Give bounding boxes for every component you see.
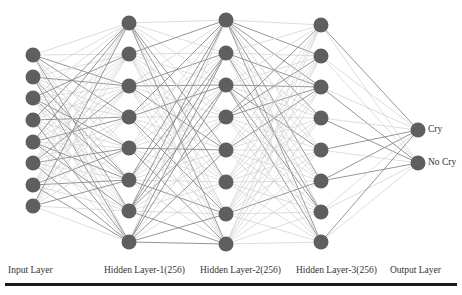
connection-edge xyxy=(226,20,321,56)
connection-edge xyxy=(321,163,418,212)
hidden3-neuron-4 xyxy=(314,111,329,126)
input-neuron-4 xyxy=(26,113,41,128)
hidden3-neuron-6 xyxy=(314,174,329,189)
connection-edge xyxy=(226,20,321,25)
hidden2-neuron-3 xyxy=(219,78,234,93)
connection-edge xyxy=(226,85,321,181)
connection-edge xyxy=(129,20,226,148)
input-neuron-7 xyxy=(26,178,41,193)
neural-network-diagram xyxy=(0,0,462,295)
hidden3-neuron-5 xyxy=(314,143,329,158)
output-node-label-cry: Cry xyxy=(428,124,442,134)
connection-edge xyxy=(129,150,226,180)
hidden1-neuron-7 xyxy=(122,204,137,219)
connection-edge xyxy=(226,117,321,181)
hidden3-neuron-3 xyxy=(314,80,329,95)
connection-edge xyxy=(321,163,418,242)
connection-edge xyxy=(321,25,418,130)
connection-edge xyxy=(321,118,418,130)
connection-edge xyxy=(129,20,226,23)
hidden1-neuron-3 xyxy=(122,79,137,94)
hidden3-neuron-2 xyxy=(314,49,329,64)
output-neuron-1 xyxy=(411,123,426,138)
connection-edge xyxy=(321,130,418,212)
hidden3-neuron-8 xyxy=(314,235,329,250)
connection-edge xyxy=(226,242,321,244)
hidden2-neuron-1 xyxy=(219,13,234,28)
hidden1-neuron-8 xyxy=(122,235,137,250)
input-neuron-3 xyxy=(26,91,41,106)
connection-edge xyxy=(129,86,226,150)
hidden-layer-1-label: Hidden Layer-1(256) xyxy=(104,265,185,275)
connection-edge xyxy=(321,56,418,130)
hidden2-neuron-6 xyxy=(219,175,234,190)
hidden2-neuron-4 xyxy=(219,110,234,125)
hidden1-neuron-2 xyxy=(122,47,137,62)
connection-edge xyxy=(226,87,321,244)
connection-edge xyxy=(129,242,226,244)
hidden1-neuron-5 xyxy=(122,141,137,156)
connection-edge xyxy=(129,182,226,242)
output-node-label-no-cry: No Cry xyxy=(428,157,456,167)
input-neuron-8 xyxy=(26,199,41,214)
input-neuron-1 xyxy=(26,48,41,63)
connection-edge xyxy=(226,87,321,117)
input-neuron-5 xyxy=(26,135,41,150)
output-neuron-2 xyxy=(411,156,426,171)
input-layer-label: Input Layer xyxy=(8,265,53,275)
bottom-divider xyxy=(5,283,457,286)
hidden1-neuron-1 xyxy=(122,16,137,31)
hidden1-neuron-6 xyxy=(122,173,137,188)
hidden3-neuron-7 xyxy=(314,205,329,220)
hidden2-neuron-8 xyxy=(219,237,234,252)
hidden2-neuron-5 xyxy=(219,143,234,158)
connection-edge xyxy=(33,54,129,55)
output-layer-label: Output Layer xyxy=(390,265,441,275)
connection-edge xyxy=(33,23,129,120)
hidden2-neuron-7 xyxy=(219,207,234,222)
hidden-layer-3-label: Hidden Layer-3(256) xyxy=(296,265,377,275)
hidden2-neuron-2 xyxy=(219,46,234,61)
hidden3-neuron-1 xyxy=(314,18,329,33)
input-neuron-6 xyxy=(26,156,41,171)
connection-edge xyxy=(226,117,321,118)
hidden1-neuron-4 xyxy=(122,110,137,125)
connection-edge xyxy=(33,142,129,211)
connection-edge xyxy=(321,130,418,181)
connection-edge xyxy=(129,53,226,180)
input-neuron-2 xyxy=(26,70,41,85)
connection-edge xyxy=(321,163,418,181)
hidden-layer-2-label: Hidden Layer-2(256) xyxy=(200,265,281,275)
connection-edge xyxy=(226,25,321,85)
